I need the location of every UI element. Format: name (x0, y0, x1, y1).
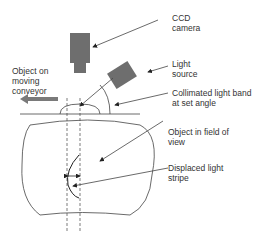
angle-arc (100, 85, 110, 114)
pointer-stripe (73, 168, 168, 186)
pointer-band (115, 93, 168, 105)
pointer-light (148, 66, 168, 72)
label-fov: Object in field ofview (168, 127, 229, 147)
light-source-icon (107, 61, 137, 89)
displaced-light-stripe (67, 155, 79, 198)
pointer-fov (100, 121, 163, 161)
light-beam (80, 78, 113, 106)
object-in-field-outline (22, 120, 154, 215)
label-camera: CCDcamera (172, 13, 200, 33)
label-object: Object onmovingconveyor (12, 66, 48, 96)
label-band: Collimated light bandat set angle (172, 88, 251, 108)
label-stripe: Displaced lightstripe (168, 163, 223, 183)
pointer-camera (93, 20, 158, 47)
label-light: Lightsource (172, 59, 198, 79)
diagram-canvas (0, 0, 262, 231)
ccd-camera-icon (70, 33, 90, 73)
